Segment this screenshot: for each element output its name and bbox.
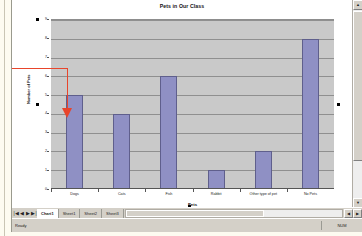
screenshot-root: Pets in Our Class Number of Pets 0123456… (0, 0, 362, 236)
x-axis-tick-labels: DogsCatsFishRabbitOther type of petNo Pe… (51, 192, 334, 196)
bar-slot (98, 20, 145, 189)
y-axis-tick-mark (47, 57, 49, 58)
bar[interactable] (302, 39, 319, 189)
x-axis-tick-label: Rabbit (193, 192, 240, 196)
x-axis-tick-label: Cats (98, 192, 145, 196)
y-axis-tick-mark (47, 170, 49, 171)
status-num-indicator: NUM (321, 221, 362, 230)
annotation-arrow-vertical-segment (67, 68, 68, 112)
y-axis-tick-mark (47, 38, 49, 39)
bar-slot (193, 20, 240, 189)
y-axis-tick-labels: 0123456789 (36, 19, 49, 189)
bar-slot (240, 20, 287, 189)
y-axis-tick-mark (47, 76, 49, 77)
bar[interactable] (255, 151, 272, 189)
annotation-arrow-horizontal-segment (12, 68, 68, 69)
tab-navigation-buttons: |◀ ◀ ▶ ▶| (12, 209, 37, 218)
x-axis-tick-label: Fish (145, 192, 192, 196)
y-axis-tick-mark (47, 132, 49, 133)
x-axis-line (51, 188, 334, 189)
x-axis-tick-label: Dogs (51, 192, 98, 196)
bar-series (51, 20, 334, 189)
y-axis-title: Number of Pets (26, 74, 31, 104)
chart-handle-mid-right[interactable] (337, 103, 340, 106)
page-left-margin (0, 0, 11, 236)
status-bar: Ready NUM (12, 218, 362, 232)
y-axis-tick-mark (47, 19, 49, 20)
bar[interactable] (160, 76, 177, 189)
y-axis-tick-mark (47, 113, 49, 114)
bar-slot (145, 20, 192, 189)
y-axis-tick-mark (47, 151, 49, 152)
margin-rule (4, 0, 5, 236)
chart-sheet-canvas[interactable]: Pets in Our Class Number of Pets 0123456… (12, 0, 352, 208)
bar-slot (51, 20, 98, 189)
bar[interactable] (208, 170, 225, 189)
annotation-arrow-head-icon (62, 108, 72, 118)
bar[interactable] (113, 114, 130, 189)
chart-title: Pets in Our Class (12, 3, 352, 9)
workbook-window: Pets in Our Class Number of Pets 0123456… (11, 0, 362, 232)
y-axis-tick-mark (47, 189, 49, 190)
x-axis-tick-label: No Pets (287, 192, 334, 196)
bar-slot (287, 20, 334, 189)
status-message: Ready (12, 223, 27, 228)
y-axis-tick-mark (47, 95, 49, 96)
horizontal-scrollbar[interactable] (125, 209, 343, 218)
x-axis-tick-label: Other type of pet (240, 192, 287, 196)
plot-area[interactable] (51, 19, 334, 189)
horizontal-scroll-thumb[interactable] (126, 210, 264, 217)
hscroll-left-icon[interactable]: ◀ (344, 209, 353, 218)
vertical-scroll-thumb[interactable] (353, 11, 362, 161)
scroll-up-button[interactable]: ▲ (353, 0, 362, 10)
hscroll-right-icon[interactable]: ▶ (353, 209, 362, 218)
vertical-scrollbar[interactable]: ▲ ▼ (352, 0, 362, 208)
